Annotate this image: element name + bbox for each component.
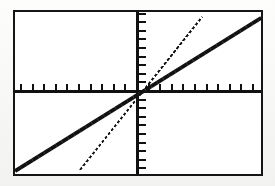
x-axis-tick — [20, 84, 22, 91]
y-axis-tick — [139, 107, 146, 109]
y-axis-tick — [139, 56, 146, 58]
x-axis-tick — [194, 84, 196, 91]
y-axis-tick — [139, 73, 146, 75]
y-axis-tick — [139, 150, 146, 152]
y-axis-tick — [139, 47, 146, 49]
x-axis-tick — [182, 84, 184, 91]
y-axis-tick — [139, 13, 146, 15]
x-axis-tick — [55, 84, 57, 91]
y-axis-tick — [139, 81, 146, 83]
y-axis-tick — [139, 124, 146, 126]
x-axis-tick — [32, 84, 34, 91]
y-axis-tick — [139, 159, 146, 161]
x-axis-tick — [43, 84, 45, 91]
y-axis-tick — [139, 64, 146, 66]
x-axis-tick — [240, 84, 242, 91]
x-axis-tick — [101, 84, 103, 91]
y-axis-tick — [139, 99, 146, 101]
x-axis-tick — [206, 84, 208, 91]
y-axis-tick — [139, 167, 146, 169]
x-axis-tick — [252, 84, 254, 91]
x-axis-tick — [171, 84, 173, 91]
x-axis-tick — [217, 84, 219, 91]
x-axis-tick — [159, 84, 161, 91]
x-axis-tick — [78, 84, 80, 91]
y-axis-tick — [139, 21, 146, 23]
y-axis-tick — [139, 116, 146, 118]
calculator-screenshot: Graphing calculator viewing window Two l… — [0, 0, 275, 186]
x-axis-tick — [90, 84, 92, 91]
y-axis-tick — [139, 30, 146, 32]
y-axis-tick — [139, 142, 146, 144]
calculator-viewing-window — [13, 10, 263, 176]
x-axis-tick — [66, 84, 68, 91]
x-axis-tick — [229, 84, 231, 91]
x-axis-tick — [124, 84, 126, 91]
plot-area — [15, 12, 261, 174]
y-axis-tick — [139, 38, 146, 40]
x-axis-tick — [113, 84, 115, 91]
y-axis-tick — [139, 133, 146, 135]
